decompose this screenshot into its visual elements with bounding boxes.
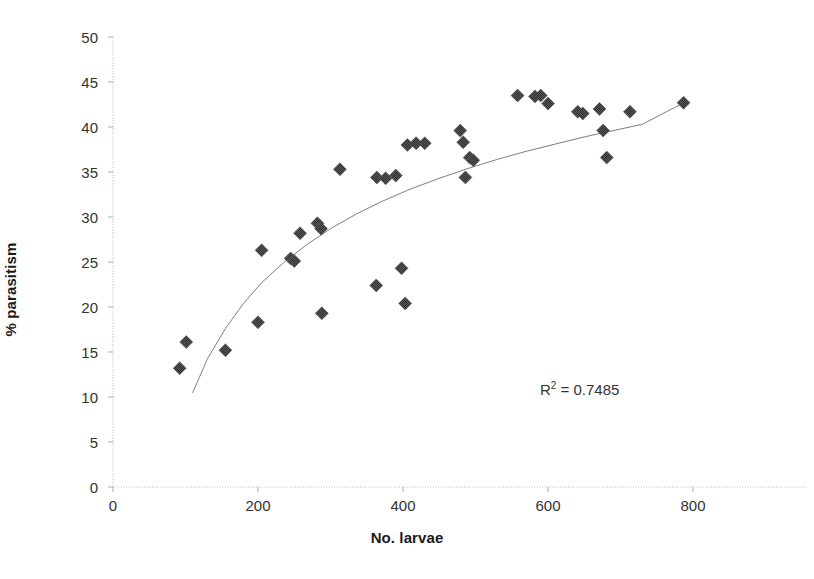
data-point <box>370 279 383 292</box>
data-point <box>333 163 346 176</box>
scatter-chart: % parasitism 05101520253035404550 020040… <box>0 0 814 579</box>
data-point <box>315 307 328 320</box>
data-point <box>597 124 610 137</box>
data-point <box>418 137 431 150</box>
r-squared-annotation: R2 = 0.7485 <box>540 380 619 398</box>
data-points <box>173 89 690 375</box>
data-point <box>294 227 307 240</box>
r-squared-exponent: 2 <box>551 380 557 391</box>
data-point <box>252 316 265 329</box>
r-squared-value: = 0.7485 <box>561 381 620 398</box>
data-point <box>459 171 472 184</box>
r-squared-base: R <box>540 381 551 398</box>
data-point <box>600 151 613 164</box>
data-point <box>593 103 606 116</box>
x-axis-title: No. larvae <box>0 529 814 546</box>
data-point <box>173 362 186 375</box>
data-point <box>389 169 402 182</box>
trend-line <box>193 102 686 393</box>
data-point <box>623 105 636 118</box>
data-point <box>457 136 470 149</box>
data-point <box>180 336 193 349</box>
axis-lines <box>113 37 806 487</box>
data-point <box>379 172 392 185</box>
data-point <box>399 297 412 310</box>
plot-area <box>0 0 814 579</box>
data-point <box>454 124 467 137</box>
data-point <box>395 262 408 275</box>
x-axis-title-label: No. larvae <box>371 529 444 546</box>
data-point <box>255 244 268 257</box>
data-point <box>677 96 690 109</box>
data-point <box>219 344 232 357</box>
data-point <box>511 89 524 102</box>
